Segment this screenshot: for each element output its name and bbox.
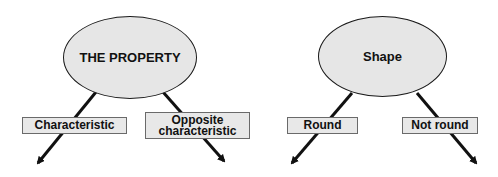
round-box: Round <box>287 117 358 134</box>
characteristic-box: Characteristic <box>22 117 127 134</box>
not-round-label: Not round <box>411 120 468 131</box>
not-round-box: Not round <box>402 117 478 134</box>
property-ellipse: THE PROPERTY <box>63 16 197 99</box>
characteristic-label: Characteristic <box>34 120 114 131</box>
shape-ellipse: Shape <box>318 16 447 97</box>
round-label: Round <box>304 120 342 131</box>
opposite-characteristic-label: Opposite characteristic <box>153 115 243 137</box>
shape-label: Shape <box>363 49 402 64</box>
property-label: THE PROPERTY <box>79 50 180 65</box>
opposite-characteristic-box: Opposite characteristic <box>145 112 250 139</box>
